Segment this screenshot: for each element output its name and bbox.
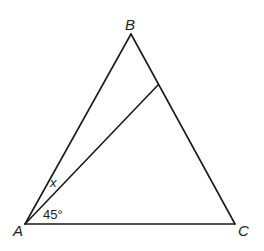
vertex-label-a: A — [12, 222, 23, 239]
triangle-diagram: B A C x 45° — [0, 0, 264, 251]
angle-label-x: x — [49, 175, 57, 190]
diagram-svg: B A C x 45° — [0, 0, 264, 251]
side-bc — [131, 34, 235, 224]
vertex-label-b: B — [125, 16, 135, 33]
vertex-label-c: C — [238, 222, 249, 239]
angle-label-45: 45° — [43, 207, 63, 222]
